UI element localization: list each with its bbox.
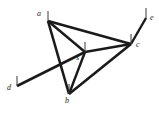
node-label-d: d [7, 84, 11, 92]
node-label-s: s [76, 54, 79, 62]
edges-group [17, 18, 146, 94]
node-label-b: b [65, 97, 69, 105]
node-label-a: a [37, 10, 41, 18]
edge-a-b [48, 21, 69, 94]
node-label-e: e [150, 14, 154, 22]
node-ticks-group [17, 8, 146, 94]
graph-figure: aecsdb [0, 0, 159, 114]
graph-canvas [0, 0, 159, 114]
node-label-c: c [136, 41, 140, 49]
